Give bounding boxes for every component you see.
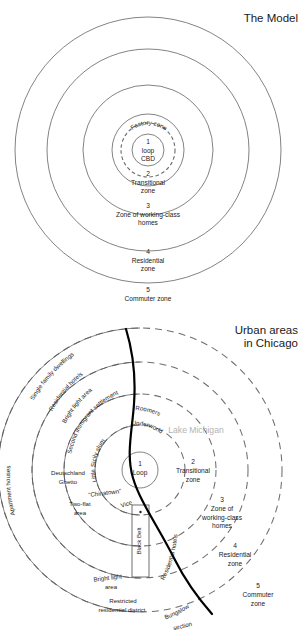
chicago-zone-3-line-0: Zone of bbox=[211, 505, 234, 512]
chicago-zone-4-line-0: Residential bbox=[219, 551, 252, 558]
figure-the-model: Factory zone 1 loop CBD 2 Transitional z… bbox=[0, 0, 306, 312]
district-label-restricted-line2: residential district bbox=[98, 606, 145, 613]
lake-michigan-label: Lake Michigan bbox=[168, 425, 224, 435]
chicago-zone-3-line-1: working-class bbox=[201, 514, 243, 522]
district-label-underworld: Underworld bbox=[132, 419, 165, 435]
model-zone-2-line-0: Transitional bbox=[131, 179, 165, 186]
model-zone-1-line1: loop bbox=[142, 147, 155, 155]
model-factory-zone-label: Factory zone bbox=[129, 119, 169, 132]
chicago-zone-5-line-0: Commuter bbox=[243, 591, 275, 598]
model-zone-4-number: 4 bbox=[146, 248, 150, 255]
chicago-zone-5-line-1: zone bbox=[251, 600, 266, 607]
district-label-bungalow-section-line1: Bungalow bbox=[163, 602, 190, 620]
district-label-two-flat-area-line2: area bbox=[74, 509, 87, 516]
model-zone-5-line-0: Commuter zone bbox=[125, 295, 172, 302]
model-zone-4-line-0: Residential bbox=[132, 257, 165, 264]
district-label-roomers: Roomers bbox=[135, 404, 161, 417]
model-zone-5-number: 5 bbox=[146, 286, 150, 293]
district-label-vice: Vice bbox=[120, 498, 134, 508]
chicago-zone-1-line1: Loop bbox=[133, 469, 148, 477]
burgess-concentric-zone-diagram: Factory zone 1 loop CBD 2 Transitional z… bbox=[0, 0, 306, 633]
district-label-bungalow-section-line2: section bbox=[172, 620, 192, 631]
model-zone-3-line-1: homes bbox=[138, 219, 158, 226]
chicago-svg: Black Belt Lake Michigan 1 Loop 2 Transi… bbox=[0, 312, 306, 633]
district-label-little-sicily-slum: Little Sicily slum bbox=[89, 437, 106, 483]
chicago-title-line-1: Urban areas bbox=[235, 324, 299, 336]
chicago-zone-2-line-0: Transitional bbox=[176, 467, 210, 474]
district-label-restricted-line1: Restricted bbox=[109, 597, 136, 604]
district-label-ghetto: Ghetto bbox=[59, 478, 78, 485]
district-label-apartment-houses: Apartment houses bbox=[4, 465, 16, 516]
model-zone-3-line-0: Zone of working-class bbox=[116, 211, 181, 219]
chicago-zone-2-line-1: zone bbox=[186, 476, 201, 483]
district-label-single-family-dwellings: Single family dwellings bbox=[28, 350, 74, 401]
district-label-two-flat-area-line1: Two-flat bbox=[69, 500, 91, 507]
chicago-title-line-2: in Chicago bbox=[244, 337, 298, 349]
chicago-zone-1-number: 1 bbox=[138, 460, 142, 467]
chicago-zone-4-number: 4 bbox=[233, 542, 237, 549]
model-zone-1-line2: CBD bbox=[141, 155, 155, 162]
chicago-zone-3-number: 3 bbox=[220, 496, 224, 503]
figure-urban-areas-in-chicago: Black Belt Lake Michigan 1 Loop 2 Transi… bbox=[0, 312, 306, 633]
chicago-zone-5-number: 5 bbox=[256, 582, 260, 589]
black-belt-marker-dot bbox=[139, 511, 141, 513]
model-svg: Factory zone 1 loop CBD 2 Transitional z… bbox=[0, 0, 306, 312]
model-zone-2-number: 2 bbox=[146, 170, 150, 177]
model-zone-1-number: 1 bbox=[146, 138, 150, 145]
black-belt-label: Black Belt bbox=[135, 527, 142, 554]
model-title: The Model bbox=[244, 12, 298, 24]
model-zone-4-line-1: zone bbox=[141, 265, 156, 272]
model-zone-2-line-1: zone bbox=[141, 187, 156, 194]
chicago-zone-4-line-1: zone bbox=[228, 560, 243, 567]
district-label-deutschland: Deutschland bbox=[51, 469, 85, 476]
district-label-second-immigrant-settlement: Second immigrant settlement bbox=[65, 388, 119, 454]
chicago-zone-3-line-2: homes bbox=[212, 522, 232, 529]
model-zone-3-number: 3 bbox=[146, 202, 150, 209]
chicago-zone-2-number: 2 bbox=[191, 458, 195, 465]
district-label-bright-light-area-lower-line1: Bright light bbox=[93, 572, 123, 582]
district-label-chinatown: “Chinatown” bbox=[88, 487, 121, 498]
district-label-bright-light-area-lower-line2: area bbox=[105, 583, 118, 590]
